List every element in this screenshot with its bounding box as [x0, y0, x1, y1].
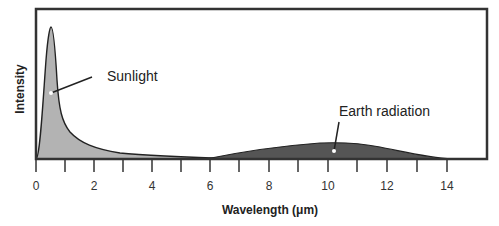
sunlight-label: Sunlight: [107, 68, 158, 84]
x-tick-4: 4: [149, 179, 156, 193]
x-tick-6: 6: [207, 179, 214, 193]
x-tick-14: 14: [440, 179, 454, 193]
x-axis-ticks: [36, 159, 447, 172]
earth-radiation-curve: [206, 143, 452, 159]
x-tick-0: 0: [33, 179, 40, 193]
x-tick-8: 8: [266, 179, 273, 193]
plot-frame: [36, 9, 487, 159]
x-tick-12: 12: [380, 179, 394, 193]
sunlight-leader-dot: [49, 91, 53, 95]
earth-leader-dot: [332, 149, 336, 153]
radiation-spectrum-chart: 0 2 4 6 8 10 12 14 Wavelength (μm) Inten…: [0, 0, 499, 226]
x-tick-2: 2: [91, 179, 98, 193]
sunlight-curve: [36, 27, 240, 159]
y-axis-title: Intensity: [13, 64, 27, 114]
x-tick-10: 10: [321, 179, 335, 193]
x-axis-title: Wavelength (μm): [222, 203, 318, 217]
earth-radiation-label: Earth radiation: [339, 103, 430, 119]
